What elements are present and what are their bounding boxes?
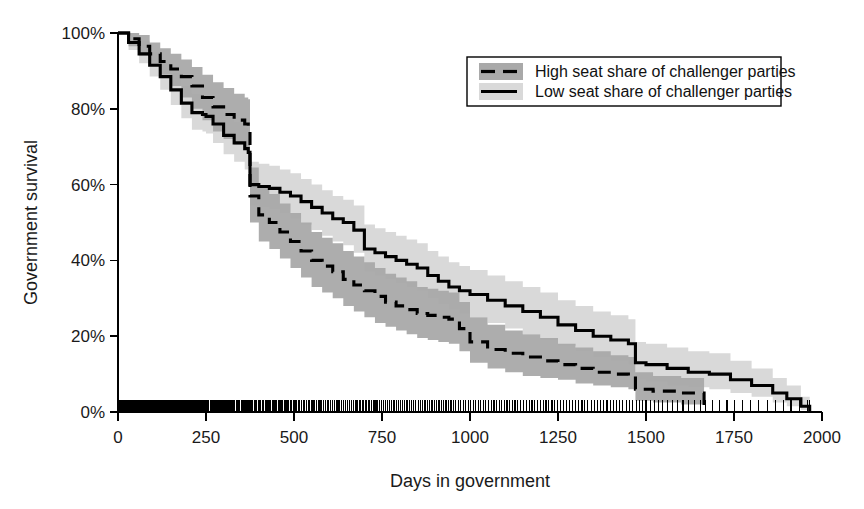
survival-chart-figure: 0%20%40%60%80%100%0250500750100012501500… bbox=[0, 0, 864, 509]
y-tick-label: 40% bbox=[71, 251, 105, 270]
x-tick-label: 250 bbox=[192, 428, 220, 447]
y-tick-label: 0% bbox=[80, 403, 105, 422]
survival-chart-svg: 0%20%40%60%80%100%0250500750100012501500… bbox=[0, 0, 864, 509]
legend-label-low: Low seat share of challenger parties bbox=[535, 83, 792, 100]
y-tick-label: 60% bbox=[71, 176, 105, 195]
x-tick-label: 1250 bbox=[539, 428, 577, 447]
x-tick-label: 1000 bbox=[451, 428, 489, 447]
x-tick-label: 0 bbox=[113, 428, 122, 447]
y-axis-title: Government survival bbox=[21, 140, 41, 305]
y-tick-label: 80% bbox=[71, 100, 105, 119]
x-tick-label: 2000 bbox=[803, 428, 841, 447]
x-tick-label: 1500 bbox=[627, 428, 665, 447]
x-tick-label: 750 bbox=[368, 428, 396, 447]
y-tick-label: 20% bbox=[71, 327, 105, 346]
x-axis-title: Days in government bbox=[390, 471, 550, 491]
legend-label-high: High seat share of challenger parties bbox=[535, 63, 796, 80]
x-tick-label: 500 bbox=[280, 428, 308, 447]
chart-legend[interactable]: High seat share of challenger parties Lo… bbox=[467, 57, 796, 106]
x-tick-label: 1750 bbox=[715, 428, 753, 447]
y-tick-label: 100% bbox=[62, 24, 105, 43]
